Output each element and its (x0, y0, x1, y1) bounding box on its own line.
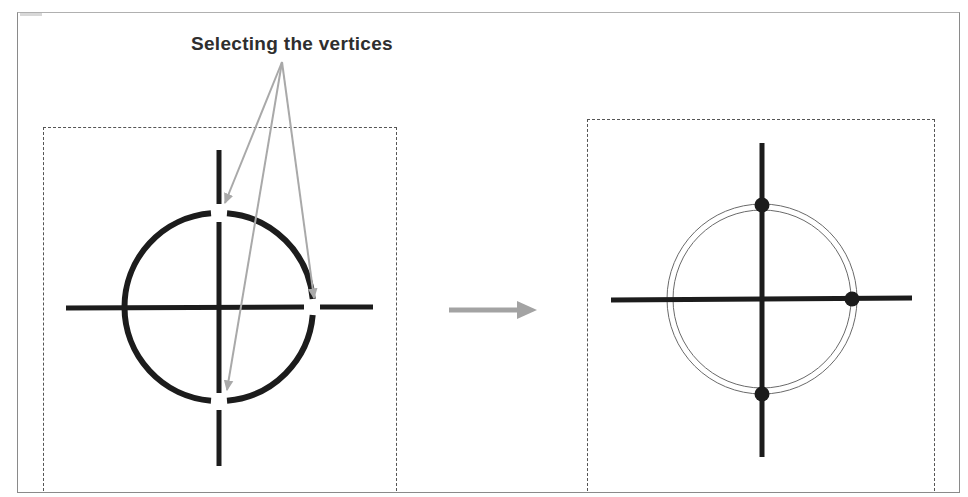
after-figure (611, 143, 912, 457)
circle-arc (227, 315, 313, 401)
vertex-marker-right (845, 292, 860, 307)
vertex-marker-top (755, 198, 770, 213)
circle-arc (227, 213, 313, 299)
vertex-marker-bottom (755, 387, 770, 402)
arrow-to-right-vertex (282, 62, 314, 298)
horizontal-line (611, 298, 912, 300)
horizontal-line (66, 307, 304, 308)
transition-arrow-icon (449, 301, 537, 319)
diagram-canvas (0, 0, 968, 497)
before-figure (66, 150, 373, 466)
arrow-to-bottom-vertex (227, 62, 282, 390)
arrow-to-top-vertex (225, 62, 282, 203)
